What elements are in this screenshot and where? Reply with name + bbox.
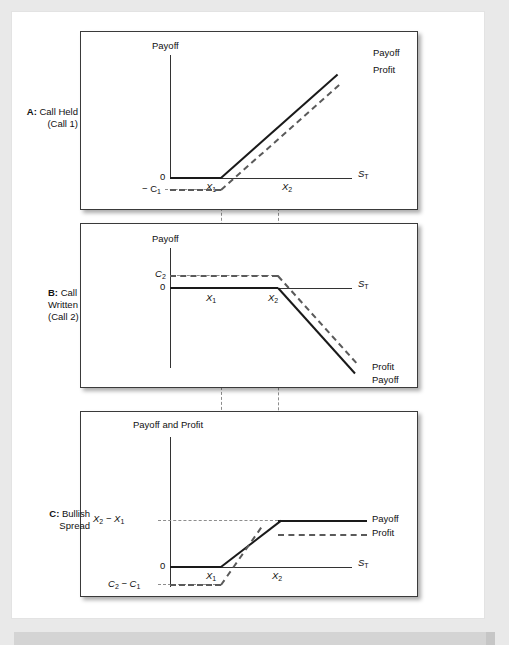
panel-b-caption-line1: B: Call — [48, 287, 77, 298]
panel-c-label-payoff: Payoff — [372, 513, 399, 524]
panel-c-caption-line2: Spread — [59, 520, 90, 531]
page-bottom-band — [14, 632, 495, 645]
panel-b-caption-line2: Written — [48, 299, 78, 310]
panel-a-x-axis-title: ST — [358, 168, 369, 179]
panel-b-xtick-x2: X2 — [268, 292, 278, 303]
panel-b-ytick-c2: C2 — [155, 268, 166, 279]
panel-c-payoff-flat-low — [170, 566, 221, 568]
panel-a-caption: A: Call Held (Call 1) — [0, 106, 78, 130]
panel-a-y-axis-title: Payoff — [152, 40, 179, 51]
panel-c-y-axis-title: Payoff and Profit — [133, 419, 203, 430]
panel-c-xtick-x2: X2 — [272, 570, 282, 581]
panel-c-label-profit: Profit — [372, 527, 394, 538]
panel-b-caption-line3: (Call 2) — [48, 311, 79, 322]
panel-c-caption-line1: C: Bullish — [49, 508, 90, 519]
panel-c-payoff-flat-high — [278, 520, 367, 522]
panel-b-ytick-zero: 0 — [160, 281, 165, 292]
panel-a-xtick-x2: X2 — [282, 181, 292, 192]
panel-c-y-axis — [170, 437, 171, 587]
panel-b-caption: B: Call Written (Call 2) — [48, 287, 128, 323]
panel-a-call-held — [80, 31, 418, 210]
panel-a-label-payoff: Payoff — [373, 47, 400, 58]
panel-b-y-axis-title: Payoff — [152, 233, 179, 244]
panel-b-xtick-x1: X1 — [206, 292, 216, 303]
panel-a-y-axis — [170, 55, 171, 178]
panel-c-profit-flat-low — [170, 584, 221, 586]
panel-a-profit-flat — [170, 189, 221, 191]
panel-c-profit-flat-high — [278, 534, 367, 536]
panel-c-xtick-x1: X1 — [206, 570, 216, 581]
panel-a-caption-line1: A: Call Held — [27, 106, 78, 117]
panel-b-x-axis-title: ST — [358, 278, 369, 289]
panel-a-ytick-zero: 0 — [160, 171, 165, 182]
panel-a-caption-line2: (Call 1) — [47, 118, 78, 129]
panel-c-ytick-zero: 0 — [160, 560, 165, 571]
panel-b-label-profit: Profit — [372, 361, 394, 372]
panel-a-payoff-flat — [170, 177, 221, 179]
panel-c-bullish-spread — [80, 411, 418, 597]
panel-c-guide-x2-minus-x1 — [158, 520, 278, 521]
panel-c-ytick-x2-minus-x1: X2 − X1 — [93, 513, 124, 524]
panel-b-payoff-flat — [170, 287, 278, 289]
panel-a-ytick-neg-c1: − C1 — [142, 183, 161, 194]
page-bottom-band-edge — [486, 632, 495, 645]
panel-b-label-payoff: Payoff — [372, 374, 399, 385]
panel-c-ytick-c2-minus-c1: C2 − C1 — [108, 578, 140, 589]
panel-b-profit-flat — [170, 275, 278, 277]
panel-b-call-written — [80, 223, 418, 388]
panel-c-caption: C: Bullish Spread — [12, 508, 90, 532]
panel-b-y-axis — [170, 248, 171, 368]
panel-a-label-profit: Profit — [373, 64, 395, 75]
panel-c-x-axis-title: ST — [358, 557, 369, 568]
